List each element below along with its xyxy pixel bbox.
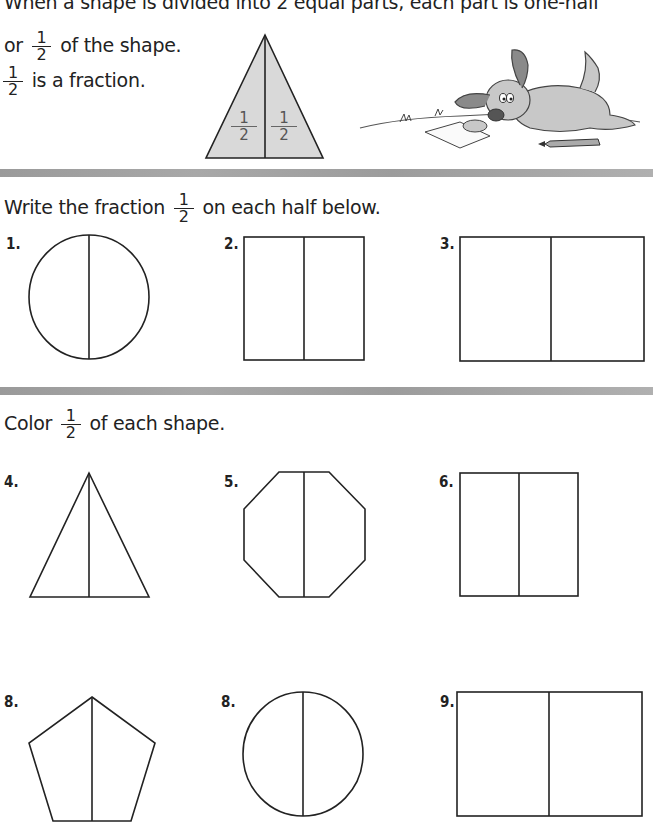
fraction-one-half: 1 2 — [174, 192, 194, 225]
problem-9-number: 9. — [440, 693, 455, 711]
problem-5-number: 5. — [224, 473, 239, 491]
problem-8-number: 8. — [221, 693, 236, 711]
intro-line-3: 1 2 is a fraction. — [0, 65, 145, 98]
intro-line-3-suffix: is a fraction. — [32, 69, 146, 91]
octagon-shape-icon — [244, 472, 369, 602]
rectangle-shape-icon — [244, 237, 369, 367]
section-divider — [0, 387, 653, 395]
fraction-one-half: 1 2 — [61, 408, 81, 441]
triangle-icon — [200, 30, 330, 165]
section2-instruction: Color 1 2 of each shape. — [4, 408, 225, 441]
dog-illustration-icon — [340, 40, 653, 170]
example-triangle: 1 2 1 2 — [200, 30, 330, 165]
circle-shape-icon — [28, 235, 158, 365]
intro-line-2-suffix: of the shape. — [60, 34, 181, 56]
problem-6-number: 6. — [439, 473, 454, 491]
problem-2-number: 2. — [224, 235, 239, 253]
circle-shape-icon — [243, 692, 368, 822]
example-label-left: 1 2 — [231, 110, 257, 143]
example-label-right: 1 2 — [271, 110, 297, 143]
rectangle-shape-icon — [460, 237, 650, 367]
pencil-icon — [538, 139, 600, 147]
rectangle-shape-icon — [457, 692, 647, 822]
section1-instruction: Write the fraction 1 2 on each half belo… — [4, 192, 380, 225]
problem-3-number: 3. — [440, 235, 455, 253]
fraction-one-half: 1 2 — [3, 65, 23, 98]
fraction-one-half: 1 2 — [32, 30, 52, 63]
problem-1-number: 1. — [6, 235, 21, 253]
intro-line-1: When a shape is divided into 2 equal par… — [4, 0, 599, 13]
rectangle-shape-icon — [460, 473, 585, 603]
triangle-shape-icon — [29, 473, 154, 603]
section-divider — [0, 169, 653, 177]
problem-7-number: 8. — [4, 693, 19, 711]
problem-4-number: 4. — [4, 473, 19, 491]
intro-line-2: or 1 2 of the shape. — [4, 30, 181, 63]
intro-line-2-prefix: or — [4, 34, 23, 56]
pentagon-shape-icon — [29, 697, 159, 832]
